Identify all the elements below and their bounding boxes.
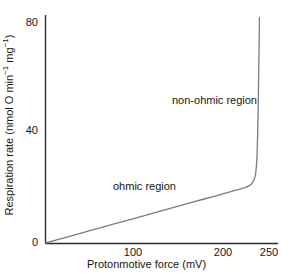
y-axis-title-sup-2: −1 xyxy=(1,38,10,47)
x-tick-label-100: 100 xyxy=(113,246,153,258)
y-axis-title-middle: mg xyxy=(3,47,15,65)
x-axis-title: Protonmotive force (mV) xyxy=(0,258,293,270)
y-axis-title-sup-1: −1 xyxy=(1,66,10,75)
annotation-non-ohmic-region: non-ohmic region xyxy=(172,94,257,106)
x-tick-label-200: 200 xyxy=(203,246,243,258)
respiration-curve xyxy=(46,18,260,243)
x-tick-label-250: 250 xyxy=(249,246,289,258)
y-axis-title-prefix: Respiration rate (nmol O min xyxy=(3,75,15,216)
annotation-ohmic-region: ohmic region xyxy=(113,180,176,192)
y-axis-title: Respiration rate (nmol O min−1 mg−1) xyxy=(3,35,15,216)
chart-figure: 80 40 0 100 200 250 Protonmotive force (… xyxy=(0,0,293,274)
y-axis-title-container: Respiration rate (nmol O min−1 mg−1) xyxy=(0,0,18,250)
plot-canvas xyxy=(0,0,293,274)
y-axis-title-suffix: ) xyxy=(3,35,15,39)
